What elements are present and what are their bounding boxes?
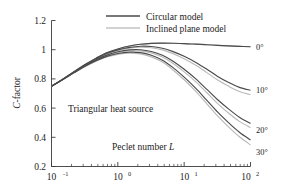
y-axis-title: C-factor — [12, 76, 22, 108]
curve-inclined-10deg — [52, 47, 251, 94]
y-tick-label-1-2: 1.2 — [34, 16, 46, 26]
angle-label-0: 0° — [256, 43, 264, 52]
annotation-heat-source: Triangular heat source — [68, 104, 153, 114]
curve-inclined-0deg — [52, 43, 251, 86]
svg-text:C-factor: C-factor — [12, 76, 22, 108]
curve-inclined-20deg — [52, 51, 251, 128]
x-tick-label-10e1-base: 10 — [180, 172, 190, 182]
y-axis-title-rest: -factor — [12, 76, 22, 102]
angle-label-10: 10° — [256, 86, 268, 95]
annotation-peclet: Peclet number L — [112, 142, 174, 152]
x-tick-marks — [52, 162, 251, 167]
c-factor-vs-peclet-chart: 1.2 1 0.8 0.6 0.4 0.2 10 -1 10 0 10 1 10… — [0, 0, 285, 192]
chart-figure: 1.2 1 0.8 0.6 0.4 0.2 10 -1 10 0 10 1 10… — [0, 0, 285, 192]
x-tick-label-10e2-exp: 2 — [256, 170, 259, 177]
curve-circular-0deg — [52, 43, 251, 86]
legend-label-circular: Circular model — [146, 12, 204, 22]
legend-label-inclined: Inclined plane model — [146, 24, 227, 34]
angle-label-30: 30° — [256, 148, 268, 157]
chart-legend: Circular model Inclined plane model — [106, 12, 227, 34]
curve-circular-30deg — [52, 52, 251, 140]
y-tick-label-0-6: 0.6 — [34, 104, 46, 114]
x-tick-labels: 10 -1 10 0 10 1 10 2 — [47, 170, 259, 182]
angle-label-20: 20° — [256, 126, 268, 135]
annotation-peclet-prefix: Peclet number — [112, 142, 169, 152]
x-tick-label-10e2-base: 10 — [241, 172, 251, 182]
x-tick-label-10e0-exp: 0 — [128, 170, 131, 177]
annotation-peclet-variable: L — [168, 142, 174, 152]
y-tick-label-1: 1 — [41, 45, 46, 55]
y-tick-marks — [52, 21, 56, 167]
x-tick-label-10e-1-base: 10 — [47, 172, 57, 182]
y-tick-label-0-8: 0.8 — [34, 74, 46, 84]
x-tick-label-10e0-base: 10 — [113, 172, 123, 182]
x-tick-label-10e-1-exp: -1 — [63, 170, 68, 177]
x-tick-label-10e1-exp: 1 — [195, 170, 198, 177]
y-tick-label-0-4: 0.4 — [34, 133, 46, 143]
y-tick-label-0-2: 0.2 — [34, 162, 46, 172]
chart-curves — [52, 43, 251, 145]
